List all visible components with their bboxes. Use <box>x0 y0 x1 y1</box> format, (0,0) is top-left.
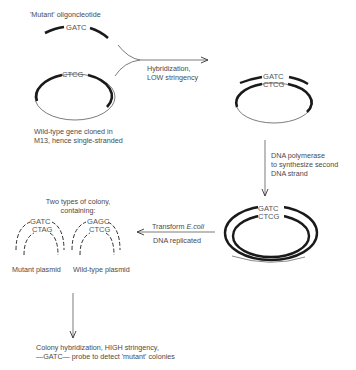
polymerase-line1: DNA polymerase <box>271 151 338 160</box>
final-line2: —GATC— probe to detect 'mutant' colonies <box>36 352 175 361</box>
transform-label: Transform E.coli <box>152 222 204 231</box>
diagram-graphics <box>0 0 356 370</box>
hybrid-bottom-sequence: CTCG <box>263 81 285 89</box>
final-step-caption: Colony hybridization, HIGH stringency, —… <box>36 343 175 361</box>
hybridization-line1: Hybridization, <box>147 64 198 73</box>
template-caption-line2: M13, hence single-stranded <box>34 136 123 145</box>
wildtype-plasmid-label: Wild-type plasmid <box>73 265 130 274</box>
template-circle <box>35 74 115 120</box>
oligo-sequence: GATC <box>66 24 87 32</box>
template-caption: Wild-type gene cloned in M13, hence sing… <box>34 127 123 145</box>
polymerase-line3: DNA strand <box>271 169 338 178</box>
ds-bottom-sequence: CTCG <box>258 213 280 221</box>
transform-prefix: Transform <box>152 222 186 231</box>
hybridization-line2: LOW stringency <box>147 73 198 82</box>
final-line1: Colony hybridization, HIGH stringency, <box>36 343 175 352</box>
mutant-plasmid-label: Mutant plasmid <box>12 265 61 274</box>
colony-title-line2: containing: <box>38 206 118 215</box>
replicated-label: DNA replicated <box>153 236 201 245</box>
template-sequence: CTCG <box>62 71 84 79</box>
polymerase-label: DNA polymerase to synthesize second DNA … <box>271 151 338 178</box>
colony-types-title: Two types of colony, containing: <box>38 197 118 215</box>
colony-title-line1: Two types of colony, <box>38 197 118 206</box>
mutant-bottom-sequence: CTAG <box>32 226 53 234</box>
polymerase-line2: to synthesize second <box>271 160 338 169</box>
template-caption-line1: Wild-type gene cloned in <box>34 127 123 136</box>
transform-organism: E.coli <box>186 222 204 231</box>
oligo-label: 'Mutant' oligoncleotide <box>30 10 101 19</box>
wildtype-bottom-sequence: CTCG <box>89 226 111 234</box>
hybridization-label: Hybridization, LOW stringency <box>147 64 198 82</box>
